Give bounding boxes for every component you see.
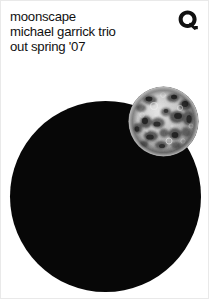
release-date: out spring '07 [10, 39, 116, 54]
headline-text-block: moonscape michael garrick trio out sprin… [10, 9, 116, 55]
album-poster: moonscape michael garrick trio out sprin… [0, 0, 209, 299]
album-title: moonscape [10, 9, 116, 24]
moon-photograph [128, 86, 199, 157]
record-label-logo-icon [177, 9, 199, 31]
artist-name: michael garrick trio [10, 24, 116, 39]
